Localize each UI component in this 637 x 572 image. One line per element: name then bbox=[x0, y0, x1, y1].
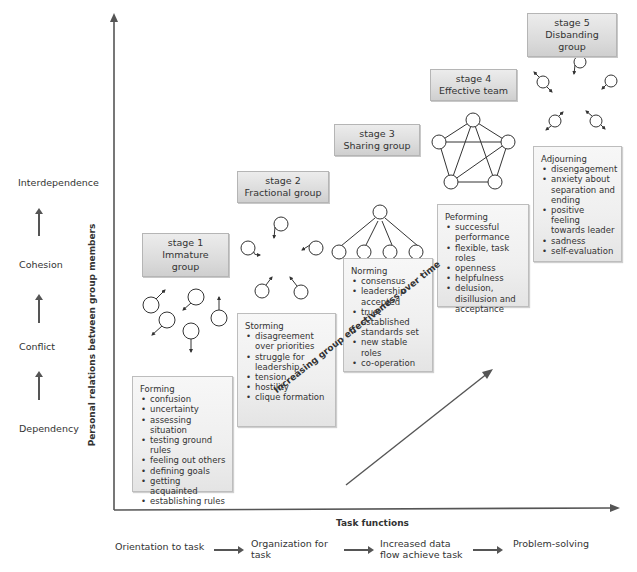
phase-item: flexible, task roles bbox=[445, 243, 522, 263]
stage2-individuals-icon bbox=[241, 217, 323, 299]
stage-name: Sharing group bbox=[339, 140, 415, 152]
stage-number: stage 4 bbox=[435, 73, 512, 85]
phase-item: feeling out others bbox=[140, 455, 226, 465]
phase-item: delusion, disillusion and acceptance bbox=[445, 283, 522, 314]
task-step-4: Problem-solving bbox=[513, 538, 613, 549]
phase-title: Adjourning bbox=[541, 154, 615, 164]
task-step-1: Orientation to task bbox=[115, 541, 215, 552]
stage-number: stage 1 bbox=[147, 237, 224, 249]
phase-item: assessing situation bbox=[140, 415, 226, 435]
stage4-network-icon bbox=[432, 113, 515, 189]
stage-name: Disbanding group bbox=[532, 29, 612, 53]
stage-number: stage 5 bbox=[532, 17, 612, 29]
storming-box: Storming disagreement over priorities st… bbox=[237, 313, 336, 427]
phase-item: testing ground rules bbox=[140, 435, 226, 455]
stage-number: stage 3 bbox=[339, 128, 415, 140]
task-step-2: Organization for task bbox=[251, 538, 341, 560]
phase-item: self-evaluation bbox=[541, 246, 615, 256]
stage-1-box: stage 1 Immature group bbox=[142, 233, 229, 277]
phase-item: establishing rules bbox=[140, 496, 226, 506]
right-arrow-icon bbox=[473, 549, 499, 551]
phase-item: new stable roles bbox=[351, 337, 426, 357]
diagram-graphics bbox=[0, 0, 637, 572]
phase-item: getting acquainted bbox=[140, 476, 226, 496]
performing-box: Peforming successful performance flexibl… bbox=[437, 204, 529, 307]
phase-items: disagreement over priorities struggle fo… bbox=[245, 331, 329, 402]
phase-item: defining goals bbox=[140, 466, 226, 476]
stage-5-box: stage 5 Disbanding group bbox=[527, 13, 617, 57]
stage5-dispersing-icon bbox=[534, 56, 617, 130]
phase-item: openness bbox=[445, 263, 522, 273]
right-arrow-icon bbox=[344, 549, 370, 551]
stage-2-box: stage 2 Fractional group bbox=[237, 171, 329, 203]
stage-number: stage 2 bbox=[242, 175, 324, 187]
phase-item: anxiety about separation and ending bbox=[541, 174, 615, 205]
phase-item: uncertainty bbox=[140, 404, 226, 414]
phase-title: Peforming bbox=[445, 212, 522, 222]
stage-3-box: stage 3 Sharing group bbox=[334, 124, 420, 156]
phase-item: positive feeling towards leader bbox=[541, 205, 615, 236]
right-arrow-icon bbox=[214, 549, 240, 551]
phase-title: Forming bbox=[140, 384, 226, 394]
forming-box: Forming confusion uncertainty assessing … bbox=[132, 376, 233, 492]
stage3-hierarchy-icon bbox=[332, 205, 423, 259]
y-axis bbox=[110, 13, 118, 510]
stage-4-box: stage 4 Effective team bbox=[430, 69, 517, 101]
phase-item: sadness bbox=[541, 236, 615, 246]
stage1-individuals-icon bbox=[143, 289, 227, 352]
phase-item: successful performance bbox=[445, 222, 522, 242]
adjourning-box: Adjourning disengagement anxiety about s… bbox=[533, 146, 622, 262]
stage-name: Fractional group bbox=[242, 187, 324, 199]
phase-item: co-operation bbox=[351, 358, 426, 368]
phase-item: clique formation bbox=[245, 392, 329, 402]
diagonal-arrow bbox=[346, 369, 493, 485]
phase-item: confusion bbox=[140, 394, 226, 404]
phase-item: disengagement bbox=[541, 164, 615, 174]
task-step-3: Increased data flow achieve task bbox=[380, 538, 470, 560]
x-axis-title: Task functions bbox=[336, 518, 409, 528]
phase-item: helpfulness bbox=[445, 273, 522, 283]
phase-item: disagreement over priorities bbox=[245, 331, 329, 351]
phase-items: disengagement anxiety about separation a… bbox=[541, 164, 615, 256]
stage-name: Effective team bbox=[435, 85, 512, 97]
stage-name: Immature group bbox=[147, 249, 224, 273]
phase-title: Storming bbox=[245, 321, 329, 331]
phase-items: successful performance flexible, task ro… bbox=[445, 222, 522, 314]
phase-items: confusion uncertainty assessing situatio… bbox=[140, 394, 226, 506]
